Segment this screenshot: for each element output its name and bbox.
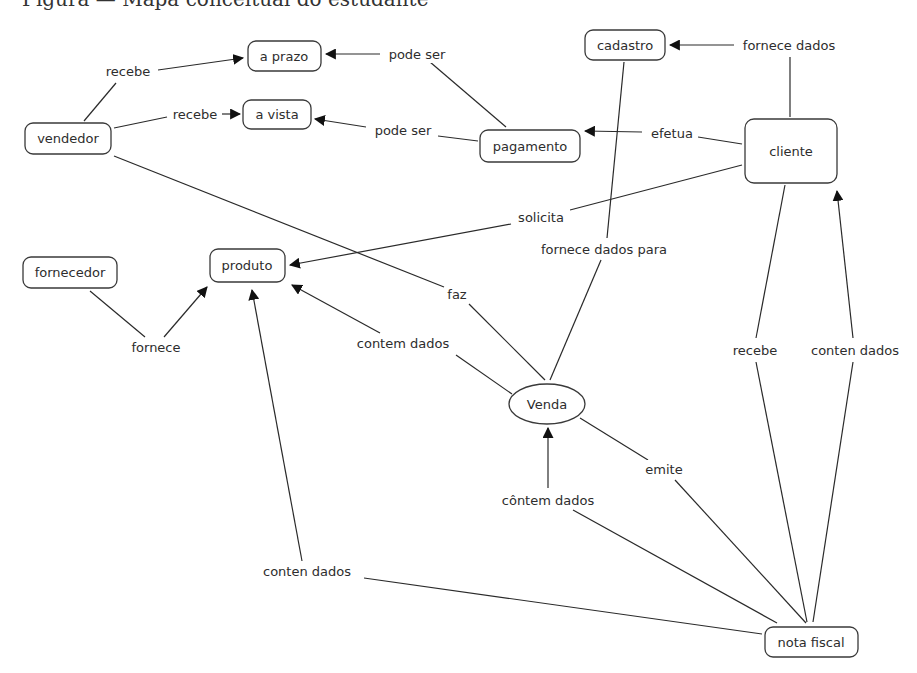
concept-a-prazo[interactable]: a prazo	[248, 41, 321, 71]
concept-produto[interactable]: produto	[210, 249, 285, 282]
link-labels: recebe recebe pode ser pode ser fornece …	[100, 36, 906, 580]
link-label-faz: faz	[447, 287, 467, 302]
concept-label-venda: Venda	[527, 397, 567, 412]
link-label-efetua: efetua	[651, 126, 693, 141]
link-label-recebe-cliente: recebe	[733, 343, 777, 358]
concept-venda[interactable]: Venda	[509, 384, 585, 424]
concept-nota-fiscal[interactable]: nota fiscal	[765, 627, 858, 657]
link-label-conten-dados-venda: côntem dados	[502, 493, 595, 508]
link-label-fornece-dados: fornece dados	[743, 38, 836, 53]
link-label-conten-dados-cliente: conten dados	[811, 343, 899, 358]
concept-fornecedor[interactable]: fornecedor	[23, 257, 117, 288]
concept-label-a-prazo: a prazo	[260, 49, 308, 64]
concept-label-produto: produto	[222, 258, 273, 273]
concept-label-vendedor: vendedor	[37, 131, 99, 146]
link-label-emite: emite	[645, 462, 682, 477]
concept-cliente[interactable]: cliente	[745, 119, 837, 183]
concept-label-cadastro: cadastro	[597, 38, 653, 53]
concept-label-pagamento: pagamento	[493, 139, 567, 154]
concept-cadastro[interactable]: cadastro	[585, 30, 665, 60]
link-label-pode-ser-prazo: pode ser	[389, 47, 446, 62]
link-label-fornece: fornece	[131, 340, 180, 355]
concept-label-fornecedor: fornecedor	[35, 265, 106, 280]
concept-vendedor[interactable]: vendedor	[25, 123, 111, 154]
link-label-pode-ser-vista: pode ser	[375, 123, 432, 138]
concept-label-cliente: cliente	[769, 144, 813, 159]
concept-pagamento[interactable]: pagamento	[480, 130, 580, 162]
link-label-recebe-prazo: recebe	[106, 64, 150, 79]
concept-map: recebe recebe pode ser pode ser fornece …	[0, 0, 917, 673]
link-label-recebe-vista: recebe	[173, 107, 217, 122]
link-label-conten-dados-produto: conten dados	[263, 564, 351, 579]
link-label-contem-dados: contem dados	[357, 336, 450, 351]
edges	[84, 45, 853, 634]
concept-label-nota-fiscal: nota fiscal	[777, 635, 844, 650]
link-label-fornece-dados-para: fornece dados para	[541, 242, 667, 257]
link-label-solicita: solicita	[518, 210, 564, 225]
concept-a-vista[interactable]: a vista	[243, 100, 311, 129]
concept-label-a-vista: a vista	[255, 107, 298, 122]
